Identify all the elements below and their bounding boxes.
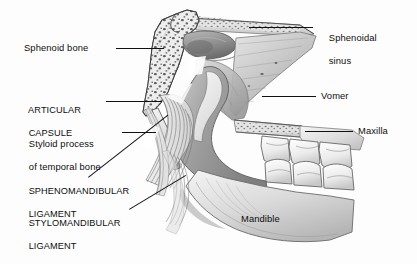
articular-capsule-line-1: ARTICULAR [28,105,81,115]
label-vomer: Vomer [321,90,349,101]
styloid-process-line-1: Styloid process [29,138,94,149]
styloid-process-line-2: of temporal bone [29,161,101,172]
leader-articular-capsule [106,101,162,102]
sphenoidal-sinus-line-1: Sphenoidal [329,32,377,43]
stylomandibular-line-2: LIGAMENT [29,241,77,251]
sphenoidal-sinus-line-2: sinus [329,55,351,66]
label-mandible: Mandible [241,213,280,224]
sphenomandibular-line-1: SPHENOMANDIBULAR [29,186,130,196]
stylomandibular-line-1: STYLOMANDIBULAR [29,218,121,228]
label-sphenoid-bone: Sphenoid bone [24,42,88,53]
anatomical-figure: Sphenoid bone ARTICULAR CAPSULE Styloid … [0,0,417,264]
label-sphenoidal-sinus: Sphenoidal sinus [318,21,377,77]
leader-styloid-process [122,132,156,133]
leader-maxilla [305,131,353,132]
label-maxilla: Maxilla [358,125,388,136]
leader-sphenoidal-sinus [249,27,313,28]
label-stylomandibular-ligament: STYLOMANDIBULAR LIGAMENT [18,207,121,264]
leader-vomer [262,96,316,97]
leader-sphenoid-bone [116,48,164,49]
